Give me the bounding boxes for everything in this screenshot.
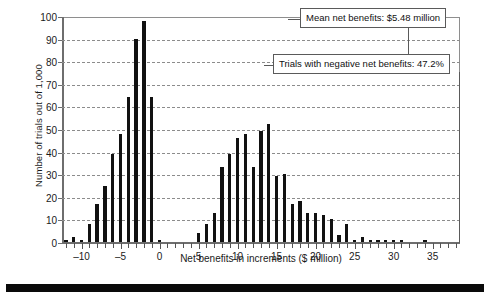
x-tick-mark-minor	[214, 243, 215, 248]
bar	[134, 39, 137, 242]
x-tick-mark-minor	[300, 243, 301, 248]
x-tick-mark-minor	[456, 243, 457, 248]
bar	[298, 201, 301, 242]
x-tick-mark-minor	[230, 243, 231, 248]
x-tick-mark-minor	[74, 243, 75, 248]
bar	[369, 240, 372, 242]
y-tick-mark	[58, 198, 62, 199]
bar	[142, 21, 145, 242]
y-tick-mark	[58, 17, 62, 18]
x-tick-mark-minor	[89, 243, 90, 248]
x-tick-mark-minor	[191, 243, 192, 248]
page-edge-bar	[6, 284, 484, 292]
bar	[392, 240, 395, 242]
x-tick-mark-minor	[105, 243, 106, 248]
bar	[361, 237, 364, 242]
x-tick-mark-minor	[97, 243, 98, 248]
y-tick-label: 80	[46, 57, 57, 68]
y-tick-label: 60	[46, 102, 57, 113]
x-tick-mark-minor	[206, 243, 207, 248]
bar	[423, 240, 426, 242]
bar	[376, 240, 379, 242]
y-tick-label: 30	[46, 170, 57, 181]
bar	[228, 154, 231, 242]
y-tick-mark	[58, 62, 62, 63]
histogram-figure: Number of trials out of 1,000 0102030405…	[0, 0, 484, 292]
bar	[384, 240, 387, 242]
x-tick-mark-minor	[253, 243, 254, 248]
x-tick-mark-major	[199, 243, 200, 249]
x-tick-mark-minor	[347, 243, 348, 248]
x-axis-title: Net benefits in increments ($ million)	[62, 253, 460, 264]
bar	[314, 213, 317, 242]
x-tick-mark-minor	[308, 243, 309, 248]
bar	[220, 167, 223, 242]
x-tick-mark-minor	[440, 243, 441, 248]
bar	[127, 97, 130, 242]
bar	[400, 240, 403, 242]
gridline	[62, 85, 460, 86]
bar	[337, 235, 340, 242]
bar	[353, 240, 356, 242]
x-tick-mark-minor	[144, 243, 145, 248]
x-tick-mark-minor	[167, 243, 168, 248]
x-tick-mark-minor	[113, 243, 114, 248]
bar	[252, 167, 255, 242]
y-tick-label: 40	[46, 147, 57, 158]
y-tick-mark	[58, 153, 62, 154]
bar	[306, 213, 309, 242]
x-tick-mark-minor	[245, 243, 246, 248]
x-tick-mark-minor	[292, 243, 293, 248]
y-tick-label: 50	[46, 125, 57, 136]
y-tick-label: 10	[46, 215, 57, 226]
bar	[158, 240, 161, 242]
y-tick-mark	[58, 175, 62, 176]
y-axis-title: Number of trials out of 1,000	[33, 26, 44, 226]
bar	[64, 240, 67, 242]
x-tick-mark-major	[316, 243, 317, 249]
x-tick-mark-major	[160, 243, 161, 249]
x-tick-mark-minor	[339, 243, 340, 248]
bar	[150, 97, 153, 242]
y-tick-mark	[58, 243, 62, 244]
y-tick-label: 70	[46, 79, 57, 90]
bar	[88, 224, 91, 242]
x-tick-mark-minor	[378, 243, 379, 248]
bar	[80, 240, 83, 242]
bar	[95, 204, 98, 242]
x-tick-mark-minor	[370, 243, 371, 248]
x-tick-mark-minor	[323, 243, 324, 248]
annotation-mean-net-benefits: Mean net benefits: $5.48 million	[300, 8, 446, 28]
bar	[322, 215, 325, 242]
y-tick-mark	[58, 40, 62, 41]
x-tick-mark-minor	[175, 243, 176, 248]
bar	[205, 224, 208, 242]
x-tick-mark-minor	[448, 243, 449, 248]
x-tick-mark-minor	[183, 243, 184, 248]
bar	[72, 237, 75, 242]
bar	[267, 124, 270, 242]
y-tick-mark	[58, 220, 62, 221]
x-tick-mark-major	[277, 243, 278, 249]
x-tick-mark-minor	[417, 243, 418, 248]
gridline	[62, 40, 460, 41]
bar	[236, 138, 239, 242]
y-tick-mark	[58, 130, 62, 131]
x-tick-mark-minor	[136, 243, 137, 248]
x-tick-mark-major	[121, 243, 122, 249]
leader-line-negative-vertical	[459, 72, 460, 243]
x-tick-mark-minor	[66, 243, 67, 248]
x-tick-mark-major	[394, 243, 395, 249]
bar	[275, 176, 278, 242]
plot-area: 0102030405060708090100 –10–5051015202530…	[62, 17, 460, 243]
x-tick-mark-major	[355, 243, 356, 249]
x-tick-mark-major	[82, 243, 83, 249]
x-tick-mark-minor	[362, 243, 363, 248]
bar	[330, 219, 333, 242]
y-tick-label: 0	[51, 238, 57, 249]
x-tick-mark-minor	[401, 243, 402, 248]
y-tick-label: 90	[46, 34, 57, 45]
gridline	[62, 107, 460, 108]
x-tick-mark-minor	[331, 243, 332, 248]
annotation-negative-net-benefits: Trials with negative net benefits: 47.2%	[273, 54, 450, 74]
